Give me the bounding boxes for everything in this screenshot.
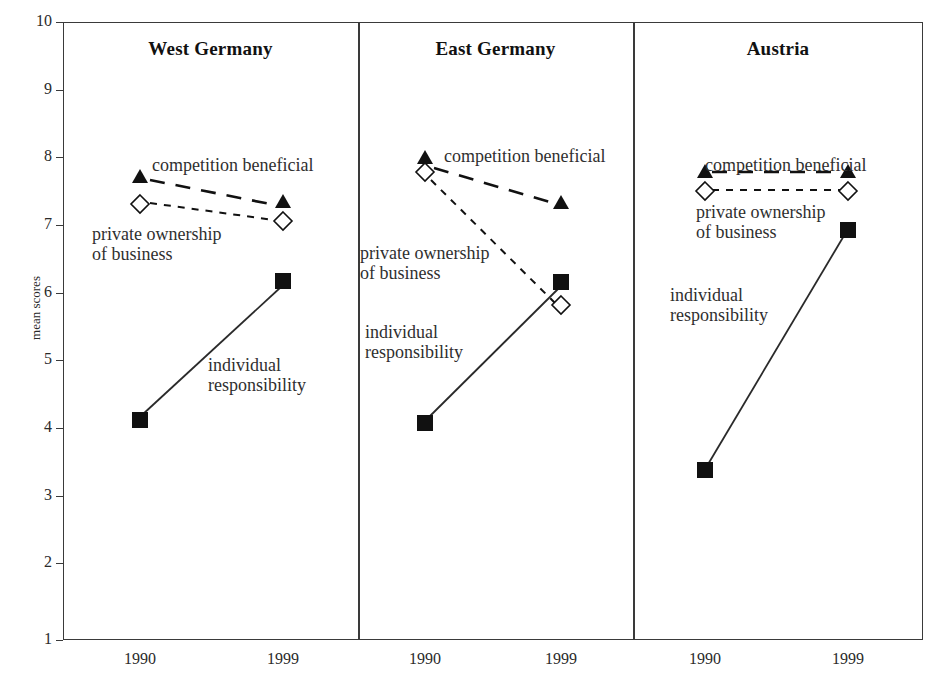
annotation-p2-individual-line2: responsibility <box>670 305 768 325</box>
annotation-p2-private-line1: private ownership <box>696 202 825 222</box>
y-tick-mark-8 <box>56 157 63 158</box>
y-tick-mark-6 <box>56 293 63 294</box>
annotation-p0-private-line1: private ownership <box>92 224 221 244</box>
x-tick-p1-1999: 1999 <box>545 650 577 668</box>
y-tick-10: 10 <box>20 13 52 29</box>
y-tick-9: 9 <box>20 81 52 97</box>
annotation-p1-competition: competition beneficial <box>444 146 605 166</box>
panel-divider-2 <box>633 22 635 640</box>
annotation-p2-competition: competition beneficial <box>705 155 866 175</box>
annotation-p1-private-line1: private ownership <box>360 243 489 263</box>
y-tick-mark-9 <box>56 90 63 91</box>
x-tick-p2-1990: 1990 <box>689 650 721 668</box>
x-tick-p0-1999: 1999 <box>267 650 299 668</box>
panel-title-west-germany: West Germany <box>63 38 358 60</box>
panel-title-east-germany: East Germany <box>358 38 633 60</box>
y-tick-mark-5 <box>56 360 63 361</box>
y-tick-mark-1 <box>56 640 63 641</box>
annotation-p0-individual-line2: responsibility <box>208 375 306 395</box>
annotation-p0-private-line2: of business <box>92 244 173 264</box>
y-tick-3: 3 <box>20 487 52 503</box>
x-tick-p1-1990: 1990 <box>409 650 441 668</box>
y-tick-1: 1 <box>20 631 52 647</box>
y-tick-8: 8 <box>20 148 52 164</box>
panel-title-austria: Austria <box>633 38 923 60</box>
plot-frame <box>63 22 923 640</box>
annotation-p1-individual-line2: responsibility <box>365 342 463 362</box>
y-tick-6: 6 <box>20 284 52 300</box>
y-tick-mark-4 <box>56 428 63 429</box>
y-axis-label: mean scores <box>28 248 44 368</box>
y-tick-7: 7 <box>20 216 52 232</box>
figure-root: mean scores 10 9 8 7 6 5 4 3 2 1 West Ge… <box>0 0 938 696</box>
annotation-p1-private-line2: of business <box>360 263 441 283</box>
annotation-p1-individual-line1: individual <box>365 322 438 342</box>
y-tick-4: 4 <box>20 419 52 435</box>
y-tick-mark-3 <box>56 496 63 497</box>
y-tick-5: 5 <box>20 351 52 367</box>
panel-divider-1 <box>358 22 360 640</box>
annotation-p2-private-line2: of business <box>696 222 777 242</box>
x-tick-p0-1990: 1990 <box>124 650 156 668</box>
annotation-p0-individual-line1: individual <box>208 355 281 375</box>
y-tick-2: 2 <box>20 554 52 570</box>
x-tick-p2-1999: 1999 <box>832 650 864 668</box>
y-tick-mark-7 <box>56 225 63 226</box>
annotation-p2-individual-line1: individual <box>670 285 743 305</box>
y-tick-mark-10 <box>56 22 63 23</box>
annotation-p0-competition: competition beneficial <box>152 155 313 175</box>
y-tick-mark-2 <box>56 563 63 564</box>
